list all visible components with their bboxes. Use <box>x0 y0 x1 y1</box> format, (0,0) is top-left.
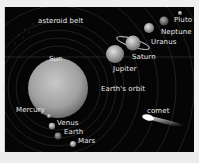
label-mercury: Mercury <box>16 106 45 114</box>
mercury <box>47 114 51 118</box>
mars <box>70 141 76 147</box>
earth <box>55 133 62 140</box>
label-sun: Sun <box>49 55 63 63</box>
bottom-margin <box>0 152 199 163</box>
comet <box>142 113 187 130</box>
label-asteroid-belt: asteroid belt <box>38 17 83 25</box>
label-earths-orbit: Earth's orbit <box>101 85 145 93</box>
label-neptune: Neptune <box>161 28 192 36</box>
label-mars: Mars <box>78 137 95 145</box>
label-earth: Earth <box>64 128 83 136</box>
label-pluto: Pluto <box>174 16 192 24</box>
pluto <box>178 11 182 15</box>
solar-system-diagram: asteroid belt Sun Mercury Venus Earth Ma… <box>4 7 194 152</box>
venus <box>49 123 55 129</box>
neptune <box>160 17 169 26</box>
label-jupiter: Jupiter <box>113 65 137 73</box>
label-comet: comet <box>147 107 170 115</box>
jupiter <box>106 45 124 63</box>
label-uranus: Uranus <box>151 38 176 46</box>
top-margin <box>0 0 199 7</box>
label-venus: Venus <box>57 119 79 127</box>
label-saturn: Saturn <box>132 53 156 61</box>
uranus <box>144 23 154 33</box>
asteroid-belt-dots <box>15 24 34 44</box>
